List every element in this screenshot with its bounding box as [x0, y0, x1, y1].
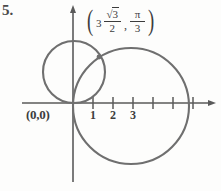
x-tick-label-1: 1	[86, 108, 100, 123]
figure-page: 5. ( 3	[0, 0, 221, 191]
large-circle-curve	[73, 48, 189, 164]
x-axis-arrow-icon	[208, 100, 216, 106]
angular-denominator: 3	[133, 22, 143, 34]
x-tick-label-2: 2	[106, 108, 120, 123]
radial-numerator: √3	[104, 9, 122, 21]
radial-coefficient: 3	[96, 13, 102, 29]
coordinate-separator: ,	[122, 18, 129, 35]
intersection-point-marker	[97, 55, 102, 60]
angular-fraction: π 3	[130, 9, 145, 34]
radial-fraction: √3 2	[104, 9, 122, 34]
close-paren: )	[148, 5, 154, 35]
x-tick-label-3: 3	[126, 108, 140, 123]
angular-numerator: π	[133, 9, 143, 21]
radial-denominator: 2	[108, 22, 118, 34]
radical-icon: √3	[106, 9, 120, 20]
open-paren: (	[87, 5, 93, 35]
radicand: 3	[112, 7, 120, 20]
origin-label: (0,0)	[26, 107, 49, 123]
y-axis-arrow-icon	[70, 5, 76, 13]
point-coordinate-label: ( 3 √3 2 , π 3 )	[85, 7, 156, 35]
